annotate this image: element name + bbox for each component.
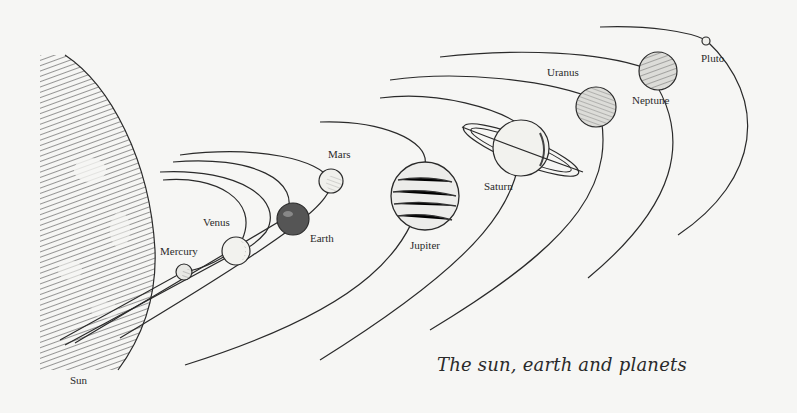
sun-body	[40, 55, 160, 375]
label-pluto: Pluto	[701, 52, 724, 64]
label-neptune: Neptune	[632, 94, 669, 106]
label-saturn: Saturn	[484, 180, 513, 192]
planet-mercury	[176, 264, 192, 280]
label-mercury: Mercury	[160, 245, 198, 257]
label-uranus: Uranus	[547, 66, 579, 78]
orbit-pluto	[600, 27, 748, 235]
planet-saturn	[459, 115, 584, 186]
solar-system-illustration	[0, 0, 797, 413]
label-jupiter: Jupiter	[410, 239, 440, 251]
label-mars: Mars	[328, 148, 351, 160]
planet-uranus	[576, 87, 616, 127]
planet-pluto	[702, 37, 710, 45]
planet-neptune	[639, 52, 677, 90]
planet-jupiter	[391, 162, 459, 230]
orbit-neptune	[440, 52, 673, 278]
orbit-jupiter	[185, 122, 425, 365]
planet-earth	[277, 203, 309, 235]
planet-mars	[319, 169, 343, 193]
planet-venus	[222, 237, 250, 265]
label-venus: Venus	[203, 216, 230, 228]
label-earth: Earth	[310, 232, 334, 244]
diagram-caption: The sun, earth and planets	[437, 354, 687, 375]
label-sun: Sun	[70, 374, 87, 386]
